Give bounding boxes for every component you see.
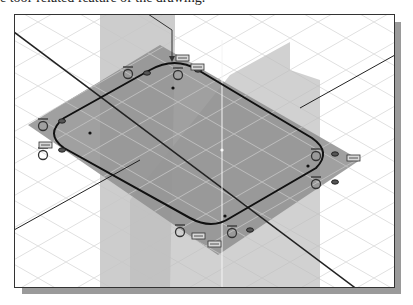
endpoint[interactable] — [144, 71, 151, 75]
equal-icon[interactable] — [176, 55, 189, 61]
arc-center-top[interactable] — [171, 86, 174, 89]
endpoint[interactable] — [332, 152, 339, 156]
caption-text: e tool-related feature of the drawing. — [0, 0, 413, 5]
equal-icon[interactable] — [347, 155, 360, 161]
equal-icon[interactable] — [191, 64, 204, 70]
endpoint[interactable] — [332, 180, 339, 184]
arc-center-bottom[interactable] — [223, 214, 226, 217]
arc-center-left[interactable] — [88, 131, 91, 134]
endpoint[interactable] — [59, 148, 66, 152]
equal-icon[interactable] — [208, 241, 221, 247]
endpoint[interactable] — [59, 119, 66, 123]
viewport-shadow-bottom — [22, 288, 401, 294]
endpoint[interactable] — [247, 228, 254, 232]
equal-icon[interactable] — [39, 142, 52, 148]
arc-center-right[interactable] — [306, 164, 309, 167]
origin-point[interactable] — [220, 148, 223, 151]
graphics-viewport[interactable] — [14, 14, 395, 288]
viewport-shadow-right — [395, 22, 401, 294]
equal-icon[interactable] — [192, 233, 205, 239]
